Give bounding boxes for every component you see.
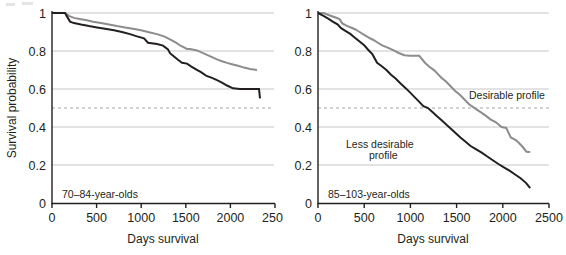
y-tick-label-0-6-right: 0.6 xyxy=(295,83,312,97)
x-tick-label-2500-right: 2500 xyxy=(535,211,563,225)
panel-85-103: 1 0.8 0.6 0.4 0.2 0 0 500 1000 1500 2000… xyxy=(283,0,566,255)
y-tick-label-1: 1 xyxy=(39,7,46,21)
y-tick-label-0-4-right: 0.4 xyxy=(295,121,312,135)
y-tick-label-0-8-right: 0.8 xyxy=(295,45,312,59)
x-tick-label-1500: 1500 xyxy=(172,211,200,225)
y-tick-label-0-6: 0.6 xyxy=(29,83,46,97)
x-axis-title-right: Days survival xyxy=(397,232,468,246)
x-tick-label-0-right: 0 xyxy=(315,211,322,225)
annotation-desirable-profile: Desirable profile xyxy=(469,89,545,101)
x-tick-label-0: 0 xyxy=(49,211,56,225)
y-tick-label-0-2: 0.2 xyxy=(29,159,46,173)
panel-label-85-103: 85–103-year-olds xyxy=(328,188,410,200)
panel-70-84: 1 0.8 0.6 0.4 0.2 0 0 500 1000 1500 2000… xyxy=(0,0,283,255)
x-axis-title-left: Days survival xyxy=(127,232,198,246)
panel-70-84-svg: 1 0.8 0.6 0.4 0.2 0 0 500 1000 1500 2000… xyxy=(0,0,283,255)
panel-85-103-svg: 1 0.8 0.6 0.4 0.2 0 0 500 1000 1500 2000… xyxy=(283,0,566,255)
x-tick-label-500: 500 xyxy=(86,211,107,225)
y-tick-label-0-2-right: 0.2 xyxy=(295,159,312,173)
curve-desirable-left xyxy=(52,13,257,70)
y-axis-title-left: Survival probability xyxy=(5,58,19,159)
survival-curves-figure: 1 0.8 0.6 0.4 0.2 0 0 500 1000 1500 2000… xyxy=(0,0,566,255)
x-tick-label-2000: 2000 xyxy=(216,211,244,225)
x-tick-label-1500-right: 1500 xyxy=(443,211,471,225)
y-tick-label-1-right: 1 xyxy=(305,7,312,21)
x-tick-label-500-right: 500 xyxy=(354,211,375,225)
y-tick-label-0-right: 0 xyxy=(305,197,312,211)
y-tick-label-0-8: 0.8 xyxy=(29,45,46,59)
y-tick-label-0-4: 0.4 xyxy=(29,121,46,135)
y-tick-label-0: 0 xyxy=(39,197,46,211)
x-tick-label-1000: 1000 xyxy=(127,211,155,225)
x-tick-label-2000-right: 2000 xyxy=(489,211,517,225)
x-tick-label-1000-right: 1000 xyxy=(396,211,424,225)
annotation-less-desirable-profile: profile xyxy=(369,149,398,161)
curve-less-desirable-left xyxy=(52,13,260,98)
x-tick-label-2500: 2500 xyxy=(262,211,283,225)
panel-label-70-84: 70–84-year-olds xyxy=(62,188,138,200)
